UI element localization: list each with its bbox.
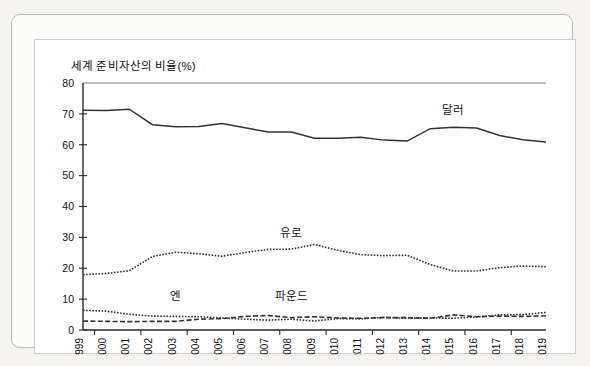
x-tick-label: 2007: [259, 338, 270, 355]
x-tick-label: 2015: [444, 338, 455, 355]
series-label-2: 엔: [170, 290, 181, 302]
series-line-0: [83, 109, 546, 142]
series-label-1: 유로: [280, 227, 302, 239]
x-tick-label: 2008: [282, 338, 293, 355]
y-tick-label: 30: [62, 231, 74, 243]
series-label-3: 파운드: [275, 290, 308, 302]
series-line-1: [83, 244, 546, 274]
chart-card: 세계 준비자산의 비율(%) 0102030405060708019992000…: [34, 39, 576, 354]
y-tick-label: 80: [62, 77, 74, 89]
x-tick-label: 2019: [537, 338, 548, 355]
x-tick-label: 2000: [97, 338, 108, 355]
line-chart: 0102030405060708019992000200120022003200…: [35, 40, 577, 355]
y-tick-label: 20: [62, 262, 74, 274]
y-tick-label: 0: [68, 324, 74, 336]
x-tick-label: 2005: [213, 338, 224, 355]
x-tick-label: 2014: [421, 338, 432, 355]
chart-plot-area: 0102030405060708019992000200120022003200…: [35, 40, 577, 355]
x-tick-label: 2018: [514, 338, 525, 355]
y-tick-label: 60: [62, 139, 74, 151]
x-tick-label: 2002: [143, 338, 154, 355]
x-tick-label: 2013: [398, 338, 409, 355]
x-tick-label: 2012: [375, 338, 386, 355]
y-tick-label: 50: [62, 169, 74, 181]
series-label-0: 달러: [442, 103, 464, 116]
y-tick-label: 70: [62, 108, 74, 120]
x-tick-label: 2016: [468, 338, 479, 355]
x-tick-label: 2003: [167, 338, 178, 355]
x-tick-label: 2017: [491, 338, 502, 355]
x-tick-label: 2011: [352, 338, 363, 355]
outer-frame: 세계 준비자산의 비율(%) 0102030405060708019992000…: [11, 14, 573, 348]
x-tick-label: 2009: [306, 338, 317, 355]
x-tick-label: 2010: [329, 338, 340, 355]
x-tick-label: 2001: [120, 338, 131, 355]
x-tick-label: 2004: [190, 338, 201, 355]
y-tick-label: 10: [62, 293, 74, 305]
series-line-2: [83, 310, 546, 321]
screenshot-root: 세계 준비자산의 비율(%) 0102030405060708019992000…: [0, 0, 590, 366]
x-tick-label: 1999: [74, 338, 85, 355]
x-tick-label: 2006: [236, 338, 247, 355]
y-tick-label: 40: [62, 200, 74, 212]
